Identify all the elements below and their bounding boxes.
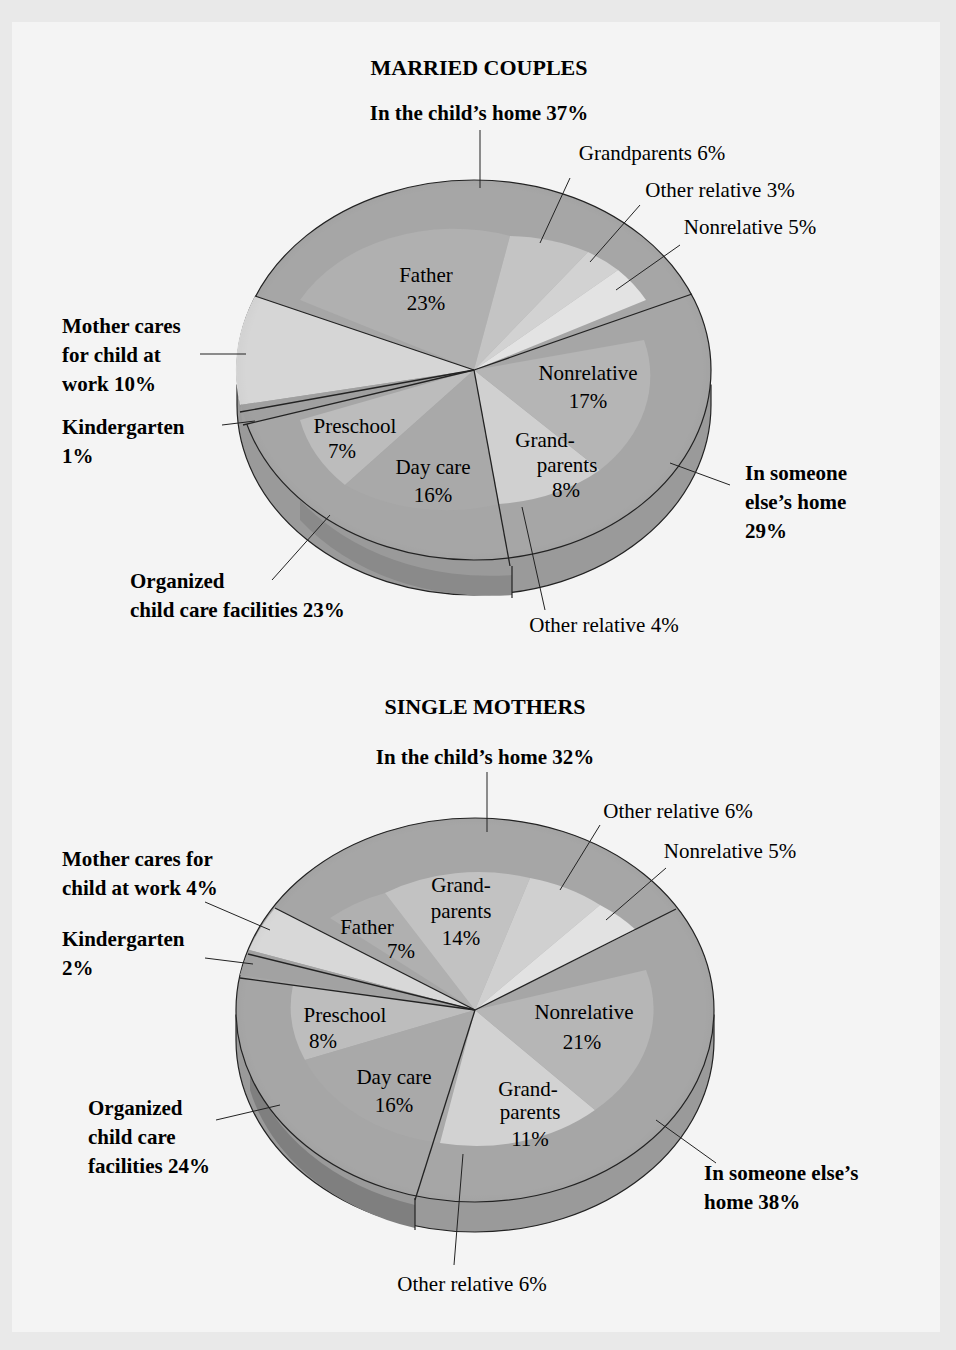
married-kinder-b: 1% (62, 444, 94, 468)
single-father-label: Father (340, 915, 394, 939)
married-mother-b: for child at (62, 343, 161, 367)
married-org-b: child care facilities 23% (130, 598, 345, 622)
single-grand2-a: Grand- (498, 1077, 557, 1101)
single-home-label: In the child’s home 32% (376, 745, 595, 769)
single-mothers-pie (205, 772, 716, 1265)
single-else-b: home 38% (704, 1190, 800, 1214)
single-grand-a: Grand- (431, 873, 490, 897)
single-nonrelative-label: Nonrelative 5% (664, 839, 796, 863)
married-father-pct: 23% (407, 291, 446, 315)
married-daycare-pct: 16% (414, 483, 453, 507)
married-org-a: Organized (130, 569, 225, 593)
married-mother-c: work 10% (62, 372, 156, 396)
single-grand2-pct: 11% (511, 1127, 549, 1151)
married-nonrel2-label: Nonrelative (538, 361, 637, 385)
married-preschool-label: Preschool (314, 414, 397, 438)
single-org-c: facilities 24% (88, 1154, 210, 1178)
single-other-relative-label: Other relative 6% (603, 799, 752, 823)
single-preschool-label: Preschool (304, 1003, 387, 1027)
married-daycare-label: Day care (395, 455, 470, 479)
single-nonrel2-label: Nonrelative (534, 1000, 633, 1024)
married-grand2-a: Grand- (515, 428, 574, 452)
single-other2-label: Other relative 6% (397, 1272, 546, 1296)
single-daycare-label: Day care (356, 1065, 431, 1089)
single-daycare-pct: 16% (375, 1093, 414, 1117)
married-nonrelative-label: Nonrelative 5% (684, 215, 816, 239)
single-org-a: Organized (88, 1096, 183, 1120)
married-title: MARRIED COUPLES (371, 55, 588, 80)
married-else-b: else’s home (745, 490, 846, 514)
single-preschool-pct: 8% (309, 1029, 337, 1053)
married-grand2-b: parents (537, 453, 598, 477)
single-grand-pct: 14% (442, 926, 481, 950)
single-mother-b: child at work 4% (62, 876, 218, 900)
married-nonrel2-pct: 17% (569, 389, 608, 413)
married-home-label: In the child’s home 37% (370, 101, 589, 125)
married-father-label: Father (399, 263, 453, 287)
chart-canvas: MARRIED COUPLES In the child’s home 37% … (0, 0, 956, 1350)
single-grand-b: parents (431, 899, 492, 923)
married-else-a: In someone (745, 461, 847, 485)
single-father-pct: 7% (387, 939, 415, 963)
married-grandparents-label: Grandparents 6% (579, 141, 725, 165)
single-nonrel2-pct: 21% (563, 1030, 602, 1054)
married-mother-a: Mother cares (62, 314, 181, 338)
single-grand2-b: parents (500, 1100, 561, 1124)
married-other-relative-label: Other relative 3% (645, 178, 794, 202)
single-title: SINGLE MOTHERS (384, 694, 585, 719)
single-else-a: In someone else’s (704, 1161, 858, 1185)
married-kinder-a: Kindergarten (62, 415, 185, 439)
married-other2-label: Other relative 4% (529, 613, 678, 637)
married-preschool-pct: 7% (328, 439, 356, 463)
single-kinder-a: Kindergarten (62, 927, 185, 951)
married-grand2-pct: 8% (552, 478, 580, 502)
single-mother-a: Mother cares for (62, 847, 213, 871)
married-couples-pie (200, 130, 730, 610)
single-kinder-b: 2% (62, 956, 94, 980)
married-else-c: 29% (745, 519, 787, 543)
single-org-b: child care (88, 1125, 176, 1149)
